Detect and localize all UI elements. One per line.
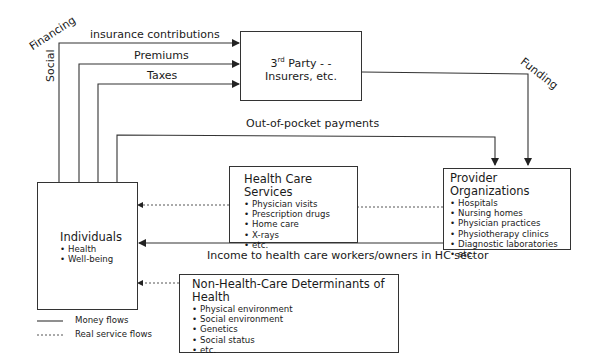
provider-item: Nursing homes [450, 208, 570, 218]
funding-arrow [362, 72, 528, 165]
provider-organizations-list: Hospitals Nursing homes Physician practi… [450, 198, 570, 259]
hcs-item: Prescription drugs [244, 209, 357, 219]
individuals-list: Health Well-being [60, 244, 137, 264]
premiums-label: Premiums [134, 49, 189, 62]
third-party-box: 3rd Party - - Insurers, etc. [240, 31, 362, 101]
non-hc-determinants-title: Non-Health-Care Determinants of Health [192, 278, 398, 304]
determinant-item: etc. [192, 345, 398, 355]
out-of-pocket-label: Out-of-pocket payments [246, 117, 379, 130]
determinant-item: Social status [192, 335, 398, 345]
hcs-item: Home care [244, 219, 357, 229]
taxes-label: Taxes [147, 69, 177, 82]
individuals-item: Health [60, 244, 137, 254]
hcs-item: X-rays [244, 230, 357, 240]
social-label: Social [44, 49, 57, 82]
provider-item: Hospitals [450, 198, 570, 208]
insurance-contributions-label: insurance contributions [90, 28, 220, 41]
hcs-item: etc. [244, 240, 357, 250]
individuals-box: Individuals Health Well-being [37, 182, 138, 310]
health-care-services-box: Health Care Services Physician visits Pr… [229, 166, 358, 243]
health-care-services-list: Physician visits Prescription drugs Home… [244, 199, 357, 250]
third-party-line1: 3rd Party - - [241, 54, 361, 70]
health-care-services-title: Health Care Services [244, 173, 357, 199]
provider-item: Physiotherapy clinics [450, 229, 570, 239]
legend-money-flows: Money flows [75, 315, 128, 325]
determinant-item: Physical environment [192, 304, 398, 314]
legend-real-service-flows: Real service flows [75, 329, 152, 339]
provider-item: Diagnostic laboratories [450, 239, 570, 249]
determinant-item: Social environment [192, 314, 398, 324]
provider-organizations-box: Provider Organizations Hospitals Nursing… [443, 168, 571, 250]
income-label: Income to health care workers/owners in … [207, 249, 488, 262]
non-hc-determinants-list: Physical environment Social environment … [192, 304, 398, 355]
individuals-title: Individuals [60, 231, 137, 244]
third-party-line2: Insurers, etc. [241, 70, 361, 83]
provider-organizations-title: Provider Organizations [450, 172, 570, 198]
non-hc-determinants-box: Non-Health-Care Determinants of Health P… [179, 274, 399, 353]
provider-item: Physician practices [450, 218, 570, 228]
taxes-arrow [98, 84, 239, 182]
hcs-item: Physician visits [244, 199, 357, 209]
individuals-item: Well-being [60, 254, 137, 264]
provider-item: etc. [450, 249, 570, 259]
determinant-item: Genetics [192, 324, 398, 334]
